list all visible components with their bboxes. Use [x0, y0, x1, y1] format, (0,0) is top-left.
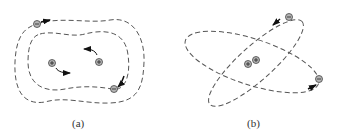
- diagram: [0, 0, 338, 139]
- nucleus-plus: [253, 57, 260, 64]
- caption-a: (a): [72, 117, 84, 129]
- arrow-icon: [84, 49, 97, 55]
- outer-orbit-a: [15, 20, 144, 104]
- nucleus-plus: [96, 59, 103, 66]
- panel-b: [178, 9, 325, 117]
- nucleus-plus: [245, 61, 252, 68]
- arrow-icon: [56, 68, 70, 73]
- electron-minus: [316, 76, 323, 83]
- arrow-icon: [308, 85, 316, 89]
- panel-a: [15, 20, 144, 104]
- electron-minus: [111, 86, 118, 93]
- electron-minus: [286, 14, 293, 21]
- inner-orbit-a: [28, 32, 129, 90]
- nucleus-plus: [49, 60, 56, 67]
- caption-b: (b): [247, 117, 260, 129]
- arrow-icon: [273, 19, 280, 25]
- electron-minus: [34, 21, 41, 28]
- orbit-ellipse-1: [178, 18, 325, 105]
